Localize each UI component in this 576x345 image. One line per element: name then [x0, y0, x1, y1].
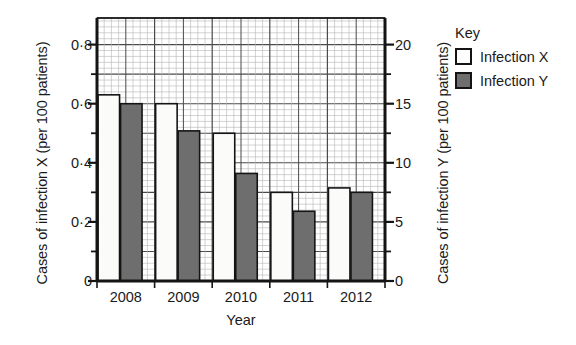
x-category-label-2012: 2012 [340, 289, 372, 305]
x-axis-title: Year [226, 312, 255, 328]
chart-figure: Cases of infection X (per 100 patients) … [0, 0, 576, 345]
legend: Key Infection X Infection Y [455, 25, 573, 96]
x-category-label-2009: 2009 [167, 289, 199, 305]
right-tick-label-1: 5 [395, 214, 403, 230]
x-category-label-2008: 2008 [110, 289, 142, 305]
legend-swatch-icon-infection-y [455, 72, 472, 89]
left-axis-tick-labels: 00·20·40·60·8 [30, 0, 92, 345]
bar-infection-y-2012 [351, 192, 373, 281]
bar-infection-x-2010 [213, 133, 235, 281]
legend-item-infection-x: Infection X [455, 48, 573, 65]
right-tick-label-2: 10 [395, 155, 411, 171]
bars-group [97, 18, 385, 281]
bar-infection-y-2010 [236, 173, 257, 281]
right-tick-label-4: 20 [395, 37, 411, 53]
left-tick-label-1: 0·2 [71, 214, 92, 230]
legend-swatch-icon-infection-x [455, 48, 472, 65]
bar-infection-x-2011 [271, 192, 293, 281]
x-category-label-2011: 2011 [283, 289, 314, 305]
left-tick-label-2: 0·4 [71, 155, 92, 171]
left-tick-label-0: 0 [84, 273, 92, 289]
left-tick-label-3: 0·6 [71, 96, 92, 112]
right-tick-label-3: 15 [395, 96, 411, 112]
x-category-label-2010: 2010 [225, 289, 257, 305]
right-axis-tick-labels: 05101520 [395, 0, 435, 345]
legend-item-infection-y: Infection Y [455, 72, 573, 89]
bar-infection-y-2011 [293, 211, 315, 281]
plot-area [97, 18, 385, 281]
bar-infection-x-2009 [156, 104, 178, 281]
legend-label-infection-x: Infection X [480, 49, 549, 65]
bar-infection-y-2008 [121, 104, 143, 281]
legend-title: Key [455, 25, 573, 41]
left-tick-label-4: 0·8 [71, 37, 92, 53]
bar-infection-y-2009 [178, 131, 200, 281]
right-axis-title: Cases of infection Y (per 100 patients) [435, 26, 451, 301]
bar-infection-x-2008 [98, 95, 120, 281]
right-tick-label-0: 0 [395, 273, 403, 289]
legend-label-infection-y: Infection Y [480, 73, 548, 89]
bar-infection-x-2012 [328, 188, 350, 281]
